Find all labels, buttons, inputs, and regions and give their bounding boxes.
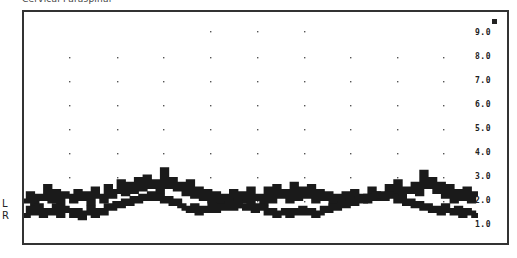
plot-area [0, 0, 517, 258]
right-channel-label: R [2, 210, 9, 221]
y-tick-label: 6.0 [475, 100, 491, 109]
y-tick-label: 4.0 [475, 148, 491, 157]
y-tick-label: 3.0 [475, 172, 491, 181]
dot-grid [69, 31, 444, 202]
y-tick-label: 7.0 [475, 76, 491, 85]
y-tick-label: 8.0 [475, 52, 491, 61]
emg-traces [24, 170, 478, 218]
y-tick-label: 9.0 [475, 28, 491, 37]
y-tick-label: 2.0 [475, 196, 491, 205]
y-tick-label: 1.0 [475, 220, 491, 229]
left-channel-label: L [2, 198, 8, 209]
scale-marker-icon [492, 19, 497, 24]
y-tick-label: 5.0 [475, 124, 491, 133]
